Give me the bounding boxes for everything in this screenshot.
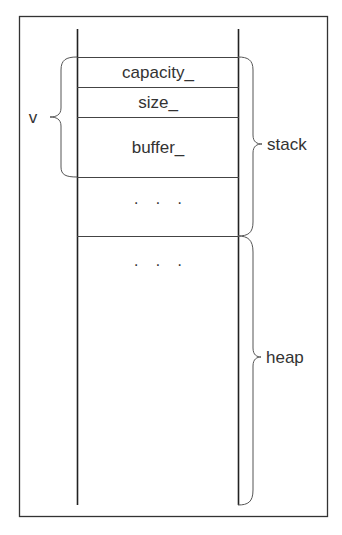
v-brace-icon [50,57,77,177]
label-stack: stack [267,135,307,154]
cell-stack-ellipsis: · · · [134,194,189,211]
cell-buffer: buffer_ [132,138,185,157]
memory-diagram: capacity_ size_ buffer_ · · · · · · v st… [0,0,342,535]
label-v: v [29,108,38,127]
stack-brace-icon [238,57,262,236]
cell-size: size_ [138,93,178,112]
label-heap: heap [266,348,304,367]
cell-capacity: capacity_ [122,63,194,82]
heap-brace-icon [238,236,261,505]
cell-heap-ellipsis: · · · [134,256,189,273]
